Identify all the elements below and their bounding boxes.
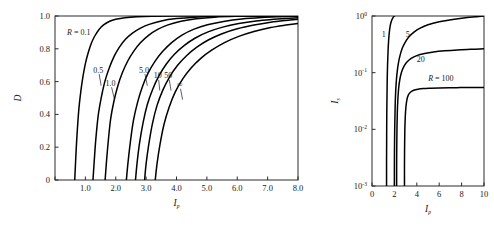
x-tick-label: 8 <box>459 189 463 199</box>
curve-label-pointer <box>181 89 183 100</box>
curve-label-pointer <box>112 87 115 99</box>
curve-label: ∞ <box>177 80 183 89</box>
data-curve <box>93 16 298 180</box>
curve-label-pointer <box>169 80 171 91</box>
data-curve <box>145 19 298 180</box>
y-axis-title: D <box>13 94 23 102</box>
dual-panel-chart: 1.02.03.04.05.06.07.08.000.20.40.60.81.0… <box>0 0 494 226</box>
y-tick-label: 100 <box>356 11 368 21</box>
y-tick-label: 0.4 <box>39 109 50 119</box>
figure-container: 1.02.03.04.05.06.07.08.000.20.40.60.81.0… <box>0 0 494 226</box>
y-tick-label: 0.2 <box>39 142 50 152</box>
x-axis-title: Ip <box>173 198 180 209</box>
x-tick-label: 0 <box>370 189 374 199</box>
data-curve <box>155 23 298 180</box>
data-curve <box>126 16 298 180</box>
curve-label: 5.0 <box>139 66 149 75</box>
x-tick-label: 4.0 <box>171 183 182 193</box>
x-tick-label: 6 <box>437 189 441 199</box>
curve-label-pointer <box>99 74 101 86</box>
y-tick-label: 0 <box>46 175 50 185</box>
y-tick-label: 10-3 <box>354 181 367 191</box>
data-curve <box>404 87 484 186</box>
curves-group <box>75 16 298 180</box>
curve-label: 0.5 <box>93 66 103 75</box>
x-tick-label: 4 <box>415 189 420 199</box>
x-tick-label: 10 <box>480 189 489 199</box>
data-curve <box>397 49 484 186</box>
x-tick-label: 3.0 <box>141 183 152 193</box>
y-tick-label: 0.8 <box>39 44 50 54</box>
data-curve <box>105 16 298 180</box>
curve-label: 1.0 <box>106 79 116 88</box>
x-tick-label: 1.0 <box>80 183 91 193</box>
data-curve <box>75 16 298 180</box>
curve-label: R = 0.1 <box>66 28 90 37</box>
data-curve <box>394 16 484 186</box>
x-tick-label: 2 <box>392 189 396 199</box>
curve-label-pointer <box>159 80 160 91</box>
x-tick-label: 7.0 <box>262 183 273 193</box>
curve-label: 50 <box>164 71 172 80</box>
x-tick-label: 6.0 <box>232 183 243 193</box>
curve-label: R = 100 <box>427 74 453 83</box>
x-tick-label: 5.0 <box>202 183 213 193</box>
right-panel: 024681010-310-210-1100IpIs1520R = 100 <box>330 11 488 216</box>
curve-label: 5 <box>406 30 410 39</box>
data-curve <box>387 16 395 186</box>
y-tick-label: 10-2 <box>354 124 367 134</box>
y-tick-label: 1.0 <box>39 11 50 21</box>
plot-frame <box>55 16 298 180</box>
y-tick-label: 0.6 <box>39 77 50 87</box>
x-axis-title: Ip <box>424 204 431 215</box>
curves-group <box>387 16 484 186</box>
curve-label: 20 <box>417 55 425 64</box>
left-panel: 1.02.03.04.05.06.07.08.000.20.40.60.81.0… <box>13 11 303 209</box>
curve-label: 1 <box>382 30 386 39</box>
x-tick-label: 2.0 <box>110 183 121 193</box>
y-tick-label: 10-1 <box>354 67 367 77</box>
x-tick-label: 8.0 <box>293 183 304 193</box>
y-axis-title: Is <box>330 98 341 104</box>
curve-label: 10 <box>154 71 162 80</box>
